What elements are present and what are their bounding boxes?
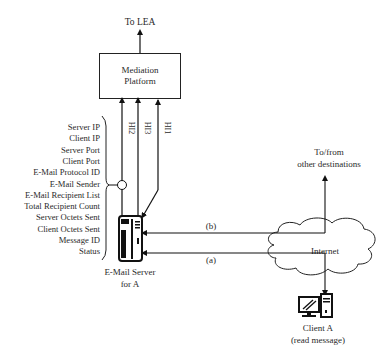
hi3-label: HI3: [143, 122, 152, 134]
field-item: Client IP: [69, 133, 100, 143]
email-interception-diagram: To LEA Mediation Platform HI2 HI3 HI1 Se…: [0, 0, 384, 363]
client-label-line1: Client A: [303, 323, 334, 333]
client-label-line2: (read message): [291, 335, 345, 345]
hi1-diagonal: [143, 190, 158, 216]
fields-brace: [102, 116, 109, 260]
other-dest-line1: To/from: [314, 147, 343, 157]
field-item: Server Port: [61, 145, 101, 155]
server-label-line2: for A: [121, 279, 140, 289]
other-dest-line2: other destinations: [297, 159, 361, 169]
field-item: Server Octets Sent: [36, 212, 101, 222]
client-computer-icon: [299, 294, 332, 317]
mediation-label-line1: Mediation: [122, 65, 159, 75]
field-item: E-Mail Sender: [50, 179, 100, 189]
email-server-icon: [119, 216, 142, 261]
mediation-platform-box: Mediation Platform: [100, 54, 181, 99]
field-item: Total Recipient Count: [24, 201, 100, 211]
field-item: Server IP: [68, 122, 100, 132]
field-list: Server IP Client IP Server Port Client P…: [24, 122, 100, 256]
field-item: Message ID: [59, 235, 100, 245]
field-item: Client Port: [63, 156, 101, 166]
to-lea-label: To LEA: [125, 17, 156, 27]
hi1-label: HI1: [163, 122, 172, 134]
path-b-label: (b): [206, 221, 217, 231]
field-item: E-Mail Protocol ID: [33, 167, 100, 177]
tap-circle: [118, 181, 127, 190]
field-item: Client Octets Sent: [37, 224, 100, 234]
field-item: Status: [79, 246, 101, 256]
path-a-label: (a): [206, 255, 216, 265]
mediation-label-line2: Platform: [124, 76, 156, 86]
server-label-line1: E-Mail Server: [104, 267, 155, 277]
hi2-label: HI2: [127, 122, 136, 134]
field-item: E-Mail Recipient List: [25, 190, 101, 200]
